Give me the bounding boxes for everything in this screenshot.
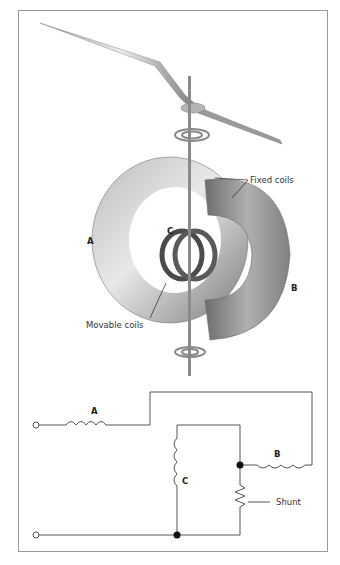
instrument-illustration: Fixed coils A C B Movable coils A B C Sh… <box>0 0 340 565</box>
junction-node <box>174 532 181 539</box>
coil-c-label: C <box>167 226 173 236</box>
movable-coils-label: Movable coils <box>86 320 144 330</box>
circuit-diagram <box>33 392 312 538</box>
circuit-c-label: C <box>182 476 188 486</box>
spindle <box>188 76 191 376</box>
coil-b-label: B <box>291 283 297 293</box>
circuit-a-label: A <box>91 406 98 416</box>
coil-a-label: A <box>87 236 94 246</box>
pointer-needle <box>40 23 282 144</box>
shunt-label: Shunt <box>276 497 302 507</box>
fixed-coils-label: Fixed coils <box>250 175 294 185</box>
junction-node <box>237 462 244 469</box>
upper-spring <box>175 129 209 141</box>
circuit-b-label: B <box>274 449 280 459</box>
